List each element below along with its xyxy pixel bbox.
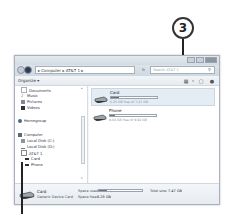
scroll-down-arrow[interactable]: ▾: [81, 176, 83, 180]
drive-icon: [25, 164, 29, 166]
forward-button[interactable]: [24, 66, 32, 74]
explorer-window: ▸ Computer ▸ AT&T 1 ▸ ↻ Search AT&T 1 ⚲ …: [14, 55, 220, 205]
drive-icon: [93, 114, 107, 121]
search-input[interactable]: Search AT&T 1: [150, 66, 215, 74]
maximize-button[interactable]: [196, 57, 204, 63]
nav-scrollbar[interactable]: [81, 116, 85, 164]
refresh-icon[interactable]: ↻: [139, 66, 148, 74]
close-button[interactable]: [205, 57, 217, 63]
help-icon[interactable]: ●: [209, 78, 215, 84]
address-row: ▸ Computer ▸ AT&T 1 ▸ ↻ Search AT&T 1 ⚲: [15, 65, 219, 76]
disk-icon: [21, 144, 25, 149]
address-bar[interactable]: ▸ Computer ▸ AT&T 1 ▸: [35, 66, 135, 74]
disk-icon: [21, 139, 25, 143]
navigation-pane: Documents ♪Music Pictures Videos Homegro…: [15, 86, 88, 183]
details-name: Card: [37, 189, 46, 194]
nav-item-phone[interactable]: Phone: [25, 162, 43, 167]
capacity-bar-fill: [111, 97, 119, 98]
details-type: Generic Device Card: [37, 195, 73, 199]
nav-item-local-disk-d[interactable]: Local Disk (D:): [21, 144, 55, 149]
nav-item-videos[interactable]: Videos: [21, 105, 40, 110]
nav-item-homegroup[interactable]: Homegroup: [18, 118, 46, 123]
space-free-label: Space free:: [78, 195, 98, 199]
capacity-bar-fill: [110, 115, 115, 116]
title-bar: [15, 56, 219, 65]
window-controls: [187, 57, 217, 63]
space-used-label: Space used:: [78, 189, 99, 193]
command-bar: Organize ▾ ▦ ▾ ▢ ●: [15, 76, 219, 86]
drive-tile-card[interactable]: Card 6.25 GB free of 7.47 GB: [91, 88, 215, 106]
total-size-label: Total size:: [150, 189, 167, 193]
space-used-fill: [99, 190, 107, 191]
minimize-button[interactable]: [187, 57, 195, 63]
view-dropdown-icon[interactable]: ▾: [190, 78, 196, 84]
capacity-bar: [109, 114, 157, 117]
details-pane: Card Generic Device Card Space used: Tot…: [15, 183, 219, 204]
callout-line-left: [21, 162, 23, 214]
content-pane: Card 6.25 GB free of 7.47 GB Phone 9.64 …: [89, 86, 219, 183]
scroll-up-arrow[interactable]: ▴: [81, 86, 83, 90]
preview-pane-icon[interactable]: ▢: [198, 78, 204, 84]
pictures-icon: [21, 100, 25, 104]
nav-item-local-disk-c[interactable]: Local Disk (C:): [21, 138, 54, 143]
nav-item-card[interactable]: Card: [25, 156, 40, 161]
computer-icon: [18, 133, 22, 137]
total-size-value: 7.47 GB: [168, 189, 182, 193]
organize-button[interactable]: Organize ▾: [18, 78, 39, 83]
capacity-bar: [110, 96, 158, 99]
drive-tile-phone[interactable]: Phone 9.64 GB free of 9.92 GB: [91, 107, 215, 125]
homegroup-icon: [18, 119, 22, 123]
nav-item-computer[interactable]: Computer: [18, 132, 43, 137]
space-used-bar: [98, 189, 143, 192]
view-icon[interactable]: ▦: [183, 78, 189, 84]
nav-item-music[interactable]: ♪Music: [21, 93, 38, 98]
drive-icon: [94, 96, 108, 103]
nav-item-pictures[interactable]: Pictures: [21, 99, 42, 104]
drive-icon: [25, 158, 29, 160]
videos-icon: [21, 106, 25, 110]
search-icon[interactable]: ⚲: [208, 67, 211, 72]
music-icon: ♪: [21, 94, 25, 98]
callout-number-3: 3: [172, 17, 194, 39]
space-free-value: 6.25 GB: [97, 195, 111, 199]
